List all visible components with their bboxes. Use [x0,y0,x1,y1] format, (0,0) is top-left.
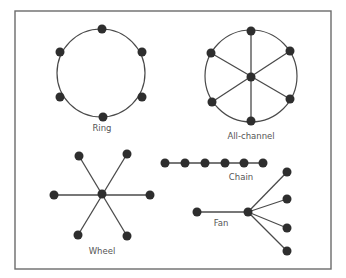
chain-node [201,159,210,168]
label-fan: Fan [214,218,229,228]
ring-node [99,113,108,122]
label-all-channel: All-channel [227,131,274,141]
all-channel-node [286,47,295,56]
chain-node [161,159,170,168]
wheel-center-node [98,190,107,199]
fan-node [283,247,292,256]
ring-ring-line [57,29,145,117]
all-channel-node [207,49,216,58]
chain-node [181,159,190,168]
all-channel-node [208,98,217,107]
chain-node [240,159,249,168]
wheel-node [123,232,132,241]
chain-node [259,159,268,168]
chain-node [221,159,230,168]
fan-center-node [244,208,253,217]
all-channel-center-node [247,73,256,82]
fan-node [193,208,202,217]
wheel-node [146,191,155,200]
wheel-node [50,191,59,200]
network-ring [56,25,147,122]
label-ring: Ring [92,123,111,133]
ring-node [138,48,147,57]
label-wheel: Wheel [89,246,116,256]
network-all-channel [205,27,297,126]
ring-node [56,48,65,57]
wheel-node [123,150,132,159]
all-channel-node [247,27,256,36]
wheel-node [74,231,83,240]
wheel-node [75,152,84,161]
fan-edge [248,212,287,228]
all-channel-node [286,95,295,104]
fan-node [283,168,292,177]
fan-node [283,195,292,204]
all-channel-node [247,117,256,126]
communication-networks-diagram: Ring All-channel Wheel Chain Fan [0,0,346,278]
fan-edge [248,212,287,251]
ring-node [56,93,65,102]
ring-node [98,25,107,34]
ring-node [138,93,147,102]
fan-node [283,224,292,233]
network-wheel [50,150,155,241]
label-chain: Chain [229,172,253,182]
network-chain [161,159,268,168]
